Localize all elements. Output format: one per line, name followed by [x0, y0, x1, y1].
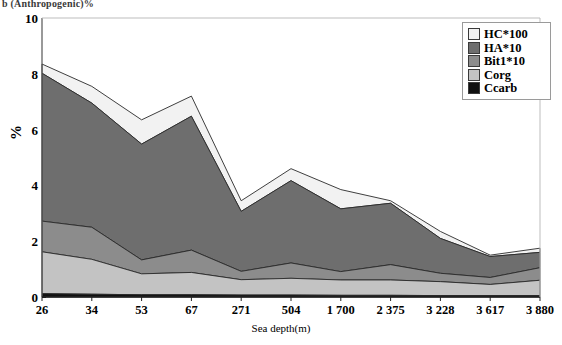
x-axis-tick-label: 1 700 — [327, 303, 355, 318]
x-axis-tick-label: 26 — [36, 303, 49, 318]
x-axis-tick-label: 67 — [185, 303, 198, 318]
legend-item: HA*10 — [468, 42, 546, 55]
x-axis-tick-label: 3 228 — [426, 303, 454, 318]
legend-swatch-icon — [468, 82, 480, 94]
x-axis-tick-label: 53 — [135, 303, 148, 318]
legend-item-label: HC*100 — [484, 28, 528, 41]
x-axis-label: Sea depth(m) — [0, 322, 562, 334]
legend-item-label: HA*10 — [484, 42, 522, 55]
legend-item-label: Bit1*10 — [484, 55, 525, 68]
x-axis-tick-label: 34 — [86, 303, 99, 318]
x-axis-tick-label: 3 617 — [476, 303, 504, 318]
x-axis-tick-label: 2 375 — [377, 303, 405, 318]
legend-swatch-icon — [468, 55, 480, 67]
chart-figure: b (Anthropogenic)% % 0246810 26345367271… — [0, 0, 562, 345]
legend-item: HC*100 — [468, 28, 546, 41]
legend-swatch-icon — [468, 69, 480, 81]
legend-item: Ccarb — [468, 82, 546, 95]
legend-swatch-icon — [468, 28, 480, 40]
x-axis-tick-label: 3 880 — [526, 303, 554, 318]
legend-swatch-icon — [468, 42, 480, 54]
x-axis-tick-label: 504 — [282, 303, 301, 318]
legend-item-label: Ccarb — [484, 82, 517, 95]
chart-legend: HC*100HA*10Bit1*10CorgCcarb — [462, 22, 551, 100]
legend-item-label: Corg — [484, 69, 511, 82]
legend-item: Bit1*10 — [468, 55, 546, 68]
legend-item: Corg — [468, 69, 546, 82]
x-axis-tick-label: 271 — [232, 303, 251, 318]
